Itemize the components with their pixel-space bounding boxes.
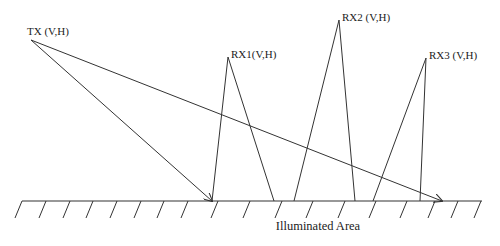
rx3-scatter-paths: [373, 58, 426, 201]
tx-rays: [31, 40, 442, 201]
tx-ray-arrow: [31, 40, 442, 201]
receiver-rx1: RX1(V,H): [212, 48, 277, 201]
rx1-label: RX1(V,H): [231, 48, 277, 61]
hatch-mark: [39, 201, 46, 218]
hatch-mark: [400, 201, 407, 218]
receiver-rx2: RX2 (V,H): [294, 11, 390, 201]
hatch-mark: [306, 201, 313, 218]
rx2-scatter-paths: [294, 20, 355, 201]
hatch-mark: [451, 201, 458, 218]
receivers: RX1(V,H) RX2 (V,H) RX3 (V,H): [212, 11, 477, 201]
hatch-mark: [428, 201, 435, 218]
hatch-mark: [211, 201, 218, 218]
hatch-mark: [15, 201, 22, 218]
hatch-mark: [181, 201, 188, 218]
hatch-mark: [338, 201, 345, 218]
ground-hatching: [15, 201, 481, 218]
hatch-mark: [157, 201, 164, 218]
hatch-mark: [63, 201, 70, 218]
hatch-mark: [243, 201, 250, 218]
receiver-rx3: RX3 (V,H): [373, 49, 477, 201]
hatch-mark: [275, 201, 282, 218]
tx-label: TX (V,H): [27, 25, 69, 38]
hatch-mark: [474, 201, 481, 218]
hatch-mark: [369, 201, 376, 218]
ground-surface: [15, 201, 482, 218]
rx2-label: RX2 (V,H): [342, 11, 390, 24]
rx3-label: RX3 (V,H): [429, 49, 477, 62]
bistatic-radar-diagram: TX (V,H) RX1(V,H) RX2 (V,H) RX3 (V,H) Il…: [0, 0, 500, 246]
hatch-mark: [134, 201, 141, 218]
illuminated-area-label: Illuminated Area: [276, 219, 361, 233]
hatch-mark: [86, 201, 93, 218]
rx1-scatter-paths: [212, 57, 274, 201]
hatch-mark: [110, 201, 117, 218]
tx-ray-arrow: [31, 40, 212, 201]
